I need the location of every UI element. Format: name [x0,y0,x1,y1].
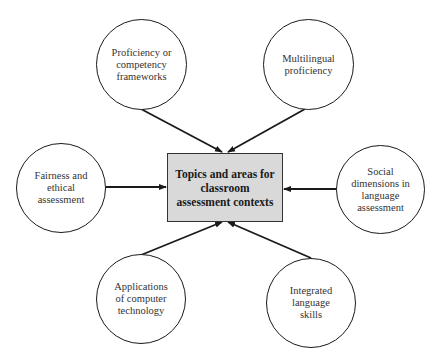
edge-multilingual-to-center [228,109,305,152]
node-proficiency-frameworks: Proficiency or competency frameworks [96,19,187,110]
node-label: Social dimensions in language assessment [345,166,416,214]
edge-computer-to-center [141,222,222,255]
center-topic-box: Topics and areas for classroom assessmen… [167,153,283,222]
node-social-dimensions: Social dimensions in language assessment [336,145,425,234]
node-integrated-skills: Integrated language skills [266,258,356,348]
center-topic-label: Topics and areas for classroom assessmen… [175,167,274,209]
node-fairness-ethical: Fairness and ethical assessment [16,143,106,233]
edge-integrated-to-center [228,222,311,258]
node-label: Integrated language skills [284,285,339,321]
node-label: Proficiency or competency frameworks [106,47,178,83]
node-computer-technology: Applications of computer technology [96,254,186,344]
node-label: Fairness and ethical assessment [29,170,94,206]
node-label: Applications of computer technology [108,281,174,317]
node-label: Multilingual proficiency [276,53,341,77]
node-multilingual-proficiency: Multilingual proficiency [263,19,354,110]
edge-proficiency-to-center [141,109,222,152]
